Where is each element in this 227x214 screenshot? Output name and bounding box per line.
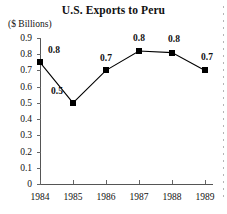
data-point-marker [136,48,142,54]
data-point-label: 0.8 [161,34,187,44]
x-axis-tick [73,180,74,184]
data-point-label: 0.8 [126,33,152,43]
y-axis-tick-label: 0.3 [10,130,32,140]
y-axis-tick-label: 0.2 [10,147,32,157]
y-axis-tick [37,70,41,71]
x-axis-tick [205,180,206,184]
x-axis-tick [172,180,173,184]
x-axis-tick-label: 1989 [188,192,222,202]
y-axis-tick [37,135,41,136]
y-axis-tick [37,152,41,153]
y-axis-tick [37,103,41,104]
y-axis-tick-label: 0.7 [10,65,32,75]
data-point-label: 0.7 [93,53,119,63]
data-point-marker [70,100,76,106]
y-axis-tick [37,38,41,39]
x-axis-tick-label: 1985 [56,192,90,202]
y-axis-tick-label: 0.1 [10,163,32,173]
x-axis-tick-label: 1988 [155,192,189,202]
x-axis-tick [106,180,107,184]
plot-area: 0.90.80.70.60.50.40.30.20.10198419851986… [0,0,227,214]
data-point-label: 0.7 [194,52,220,62]
line-series-svg [0,0,227,214]
y-axis-tick-label: 0.6 [10,82,32,92]
y-axis-tick [37,87,41,88]
data-point-marker [103,67,109,73]
y-axis-tick-label: 0.4 [10,114,32,124]
x-axis-tick [139,180,140,184]
data-point-marker [202,67,208,73]
y-axis-tick [37,168,41,169]
x-axis-tick-label: 1986 [89,192,123,202]
x-axis-tick-label: 1987 [122,192,156,202]
data-point-marker [169,50,175,56]
x-axis-tick [40,180,41,184]
y-axis-tick-label: 0 [10,179,32,189]
data-point-label: 0.5 [44,86,70,96]
y-axis-tick-label: 0.9 [10,33,32,43]
data-point-label: 0.8 [41,45,67,55]
x-axis-tick-label: 1984 [23,192,57,202]
y-axis-tick-label: 0.8 [10,49,32,59]
data-point-marker [37,59,43,65]
y-axis-tick [37,184,41,185]
y-axis-tick-label: 0.5 [10,98,32,108]
x-axis-line [40,184,213,185]
y-axis-tick [37,119,41,120]
page-edge-artifact [223,6,224,202]
chart-figure: U.S. Exports to Peru ($ Billions) 0.90.8… [0,0,227,214]
